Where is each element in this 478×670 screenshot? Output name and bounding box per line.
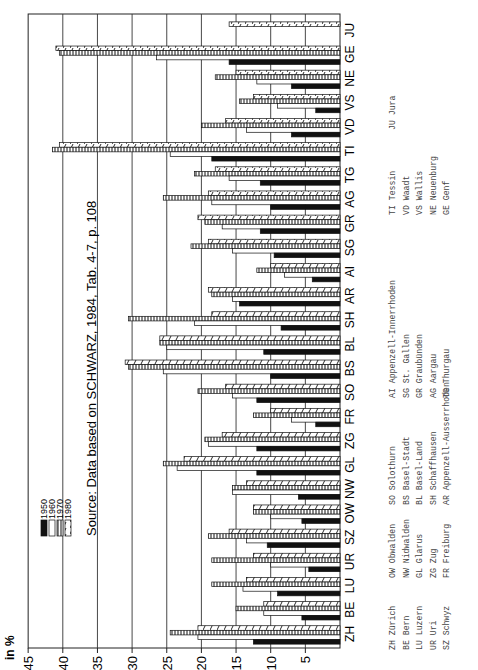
bar-sh-1970 <box>129 316 340 321</box>
bar-bs-1950 <box>271 374 340 379</box>
key-entry: VS Wallis <box>415 171 424 215</box>
bar-sz-1950 <box>267 543 340 548</box>
category-label: SH <box>343 312 357 329</box>
bar-vs-1960 <box>278 104 340 109</box>
key-entry: NW Nidwalden <box>402 519 411 578</box>
key-entry: UR Uri <box>429 620 438 650</box>
category-label: NE <box>343 70 357 87</box>
bar-sz-1970 <box>208 534 340 539</box>
bar-zh-1950 <box>253 640 340 645</box>
bar-zh-1980 <box>198 626 340 631</box>
bar-sg-1970 <box>191 244 340 249</box>
bar-lu-1950 <box>278 591 340 596</box>
bar-lu-1960 <box>243 587 340 592</box>
bar-fr-1980 <box>271 408 340 413</box>
bar-gl-1950 <box>257 470 340 475</box>
tick-label: 30 <box>125 656 140 670</box>
bar-vs-1980 <box>253 94 340 99</box>
category-label: VD <box>343 118 357 135</box>
bar-zg-1960 <box>208 442 340 447</box>
category-label: AR <box>343 287 357 304</box>
key-entry: ZH Zürich <box>388 606 397 650</box>
category-label: UR <box>343 552 357 570</box>
bar-ar-1980 <box>208 288 340 293</box>
svg-text:Source: Data based on SCHWARZ,: Source: Data based on SCHWARZ, 1984, Tab… <box>84 201 99 536</box>
bar-gr-1980 <box>198 215 340 220</box>
key-entry: SZ Schwyz <box>442 606 451 650</box>
bar-bs-1970 <box>129 365 340 370</box>
category-label: GL <box>343 457 357 473</box>
key-entry: VD Waadt <box>402 176 411 215</box>
key-entry: BE Bern <box>402 616 411 650</box>
category-label: VS <box>343 95 357 111</box>
key-entry: GE Genf <box>442 181 451 215</box>
bar-vd-1980 <box>226 118 340 123</box>
tick-label: 40 <box>56 656 71 670</box>
bar-zg-1950 <box>257 446 340 451</box>
category-label: NW <box>343 478 357 499</box>
bar-ur-1960 <box>271 562 340 567</box>
key-entry: TG Thurgau <box>442 349 451 398</box>
bar-ti-1950 <box>212 156 340 161</box>
bar-ur-1970 <box>212 558 340 563</box>
category-axis: ZHBELUURSZOWNWGLZGFRSOBSBLSHARAISGGRAGTG… <box>343 23 357 642</box>
key-entry: GL Glarus <box>415 534 424 578</box>
key-entry: AG Aargau <box>429 354 438 398</box>
bar-ai-1980 <box>271 263 340 268</box>
bar-tg-1980 <box>215 167 340 172</box>
tick-label: 20 <box>194 656 209 670</box>
chart: 51015202530354045 ZHBELUURSZOWNWGLZGFRSO… <box>0 0 478 670</box>
bar-sg-1950 <box>274 253 340 258</box>
bar-gr-1970 <box>205 220 340 225</box>
bar-ar-1960 <box>233 297 340 302</box>
bar-sh-1950 <box>281 326 340 331</box>
bar-ag-1970 <box>163 196 340 201</box>
key-entry: BS Basel-Stadt <box>402 436 411 505</box>
bar-zh-1970 <box>170 630 340 635</box>
key-entry: LU Luzern <box>415 606 424 650</box>
bar-so-1980 <box>226 384 340 389</box>
bar-tg-1950 <box>260 181 340 186</box>
bar-nw-1970 <box>233 485 340 490</box>
bar-ge-1980 <box>56 46 340 51</box>
bar-lu-1980 <box>246 577 340 582</box>
bar-ar-1950 <box>240 301 340 306</box>
bar-gr-1960 <box>222 224 340 229</box>
bar-so-1960 <box>233 393 340 398</box>
category-label: BE <box>343 602 357 618</box>
key-entry: BL Basel-Land <box>415 441 424 505</box>
bar-ur-1950 <box>309 567 340 572</box>
tick-label: 45 <box>21 656 36 670</box>
bar-nw-1950 <box>298 495 340 500</box>
canton-key: ZH ZürichBE BernLU LuzernUR UriSZ Schwyz… <box>388 96 451 650</box>
bar-vs-1970 <box>240 99 340 104</box>
bar-ur-1980 <box>253 553 340 558</box>
bar-sz-1960 <box>246 538 340 543</box>
bar-so-1970 <box>198 389 340 394</box>
bar-ag-1950 <box>271 205 340 210</box>
bar-bl-1960 <box>167 345 340 350</box>
bar-be-1970 <box>236 606 340 611</box>
bar-zg-1980 <box>222 432 340 437</box>
source-note: Source: Data based on SCHWARZ, 1984, Tab… <box>84 201 99 536</box>
category-label: JU <box>343 23 357 38</box>
bar-sh-1980 <box>212 312 340 317</box>
category-label: FR <box>343 408 357 424</box>
tick-label: 10 <box>264 656 279 670</box>
bar-ow-1980 <box>253 505 340 510</box>
bar-ai-1970 <box>257 268 340 273</box>
bar-nw-1980 <box>246 481 340 486</box>
bar-ju-1980 <box>229 22 340 27</box>
category-label: SO <box>343 384 357 401</box>
tick-label: 35 <box>90 656 105 670</box>
bar-ne-1980 <box>236 70 340 75</box>
key-entry: SG St. Gallen <box>402 334 411 398</box>
bar-gr-1950 <box>260 229 340 234</box>
bar-ge-1960 <box>156 55 340 60</box>
bar-ow-1950 <box>302 519 340 524</box>
bar-gl-1980 <box>184 457 340 462</box>
bar-ne-1960 <box>257 79 340 84</box>
category-label: LU <box>343 578 357 593</box>
bar-ge-1970 <box>59 51 340 56</box>
bar-vs-1950 <box>316 108 340 113</box>
